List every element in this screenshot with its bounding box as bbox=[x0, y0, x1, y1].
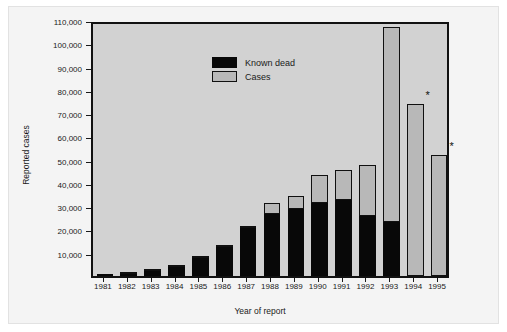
legend-swatch-known-dead bbox=[212, 57, 237, 68]
legend-label-cases: Cases bbox=[245, 72, 271, 82]
x-axis-tick-mark bbox=[151, 278, 152, 282]
x-axis-tick-label: 1995 bbox=[428, 282, 446, 291]
bar-segment-known-dead[interactable] bbox=[144, 271, 161, 276]
bar-group[interactable] bbox=[335, 170, 352, 276]
x-axis-tick-label: 1989 bbox=[285, 282, 303, 291]
x-axis-tick-label: 1982 bbox=[118, 282, 136, 291]
y-axis-tick-labels: 10,00020,00030,00040,00050,00060,00070,0… bbox=[30, 0, 82, 332]
bar-annotation-asterisk: * bbox=[449, 141, 453, 152]
bar-group[interactable] bbox=[407, 104, 424, 276]
y-axis-tick-label: 40,000 bbox=[30, 180, 82, 189]
x-axis-tick-mark bbox=[389, 278, 390, 282]
bar-segment-cases[interactable] bbox=[407, 104, 424, 276]
x-axis-tick-mark bbox=[198, 278, 199, 282]
bar-group[interactable] bbox=[144, 271, 161, 276]
bar-segment-known-dead[interactable] bbox=[240, 228, 257, 276]
bar-annotation-asterisk: * bbox=[426, 90, 430, 101]
x-axis-tick-mark bbox=[270, 278, 271, 282]
bar-group[interactable] bbox=[192, 257, 209, 276]
x-axis-title: Year of report bbox=[100, 306, 420, 316]
y-axis-tick-label: 90,000 bbox=[30, 64, 82, 73]
chart-legend: Known dead Cases bbox=[212, 57, 295, 85]
bar-segment-known-dead[interactable] bbox=[168, 267, 185, 276]
y-axis-tick-label: 70,000 bbox=[30, 111, 82, 120]
bar-segment-known-dead[interactable] bbox=[311, 203, 328, 276]
bar-segment-cases[interactable] bbox=[288, 196, 305, 209]
x-axis-tick-label: 1994 bbox=[404, 282, 422, 291]
bar-segment-known-dead[interactable] bbox=[264, 214, 281, 276]
legend-item-known-dead: Known dead bbox=[212, 57, 295, 68]
x-axis-tick-label: 1986 bbox=[213, 282, 231, 291]
bar-group[interactable] bbox=[120, 274, 137, 276]
legend-item-cases: Cases bbox=[212, 71, 295, 82]
bar-segment-known-dead[interactable] bbox=[97, 274, 114, 276]
x-axis-tick-label: 1985 bbox=[189, 282, 207, 291]
x-axis-tick-mark bbox=[127, 278, 128, 282]
y-axis-tick-label: 10,000 bbox=[30, 250, 82, 259]
chart-figure: Reported cases 10,00020,00030,00040,0005… bbox=[0, 0, 507, 332]
x-axis-tick-label: 1988 bbox=[261, 282, 279, 291]
bar-segment-known-dead[interactable] bbox=[192, 258, 209, 276]
x-axis-tick-label: 1991 bbox=[333, 282, 351, 291]
x-axis-tick-mark bbox=[413, 278, 414, 282]
y-axis-tick-label: 60,000 bbox=[30, 134, 82, 143]
y-axis-tick-label: 20,000 bbox=[30, 227, 82, 236]
bar-segment-known-dead[interactable] bbox=[216, 247, 233, 276]
x-axis-tick-label: 1987 bbox=[237, 282, 255, 291]
bar-segment-cases[interactable] bbox=[359, 165, 376, 215]
bar-group[interactable] bbox=[264, 203, 281, 276]
x-axis-tick-label: 1992 bbox=[357, 282, 375, 291]
bar-segment-known-dead[interactable] bbox=[120, 274, 137, 276]
y-axis-tick-label: 50,000 bbox=[30, 157, 82, 166]
bar-group[interactable] bbox=[431, 155, 448, 276]
bar-group[interactable] bbox=[97, 275, 114, 276]
x-axis-tick-mark bbox=[246, 278, 247, 282]
plot-area: ** Known dead Cases bbox=[91, 22, 449, 278]
bar-segment-cases[interactable] bbox=[431, 155, 448, 276]
x-axis-tick-mark bbox=[437, 278, 438, 282]
x-axis-tick-mark bbox=[103, 278, 104, 282]
x-axis-tick-mark bbox=[294, 278, 295, 282]
x-axis-tick-labels: 1981198219831984198519861987198819891990… bbox=[91, 282, 449, 296]
y-axis-tick-label: 110,000 bbox=[30, 18, 82, 27]
x-axis-tick-label: 1990 bbox=[309, 282, 327, 291]
bar-group[interactable] bbox=[311, 175, 328, 276]
bar-group[interactable] bbox=[216, 245, 233, 276]
bar-segment-cases[interactable] bbox=[264, 203, 281, 215]
x-axis-tick-label: 1983 bbox=[142, 282, 160, 291]
x-axis-tick-mark bbox=[318, 278, 319, 282]
x-axis-tick-mark bbox=[342, 278, 343, 282]
x-axis-tick-label: 1993 bbox=[380, 282, 398, 291]
y-axis-tick-label: 30,000 bbox=[30, 204, 82, 213]
y-axis-tick-label: 100,000 bbox=[30, 41, 82, 50]
x-axis-tick-label: 1981 bbox=[94, 282, 112, 291]
legend-label-known-dead: Known dead bbox=[245, 58, 295, 68]
x-axis-tick-mark bbox=[222, 278, 223, 282]
bar-group[interactable] bbox=[359, 165, 376, 276]
y-axis-tick-label: 80,000 bbox=[30, 87, 82, 96]
bar-segment-known-dead[interactable] bbox=[383, 222, 400, 276]
bar-segment-known-dead[interactable] bbox=[288, 209, 305, 276]
x-axis-tick-label: 1984 bbox=[166, 282, 184, 291]
bar-group[interactable] bbox=[383, 27, 400, 276]
bar-segment-cases[interactable] bbox=[335, 170, 352, 200]
bar-segment-cases[interactable] bbox=[311, 175, 328, 203]
legend-swatch-cases bbox=[212, 71, 237, 82]
bar-segment-cases[interactable] bbox=[383, 27, 400, 222]
bar-group[interactable] bbox=[288, 196, 305, 276]
bar-segment-known-dead[interactable] bbox=[335, 200, 352, 276]
bar-group[interactable] bbox=[168, 266, 185, 276]
x-axis-tick-mark bbox=[365, 278, 366, 282]
x-axis-tick-mark bbox=[175, 278, 176, 282]
bar-segment-known-dead[interactable] bbox=[359, 216, 376, 277]
bar-group[interactable] bbox=[240, 226, 257, 276]
